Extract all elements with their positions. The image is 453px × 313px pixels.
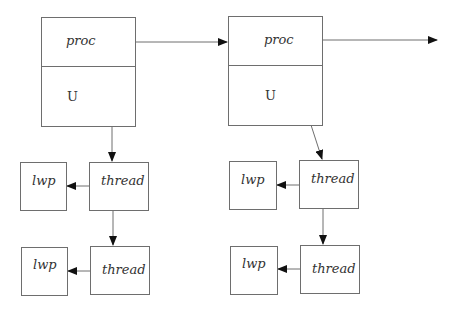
thread-box: thread bbox=[300, 245, 360, 294]
lwp-label: lwp bbox=[241, 172, 265, 187]
arrow-proc2-to-thread bbox=[311, 125, 322, 159]
lwp-box: lwp bbox=[230, 246, 278, 295]
proc-label: proc bbox=[264, 32, 294, 47]
thread-box: thread bbox=[89, 162, 149, 211]
lwp-box: lwp bbox=[229, 161, 277, 210]
lwp-label: lwp bbox=[32, 173, 56, 188]
thread-label: thread bbox=[101, 173, 145, 188]
proc-box-1: proc U bbox=[41, 17, 136, 127]
lwp-box: lwp bbox=[20, 162, 67, 211]
lwp-label: lwp bbox=[33, 257, 57, 272]
thread-label: thread bbox=[312, 261, 356, 276]
thread-label: thread bbox=[102, 262, 146, 277]
thread-box: thread bbox=[299, 160, 359, 209]
proc-box-2: proc U bbox=[228, 16, 323, 126]
lwp-box: lwp bbox=[21, 247, 68, 296]
lwp-label: lwp bbox=[242, 256, 266, 271]
u-area-label: U bbox=[67, 89, 78, 104]
proc-section: proc bbox=[42, 18, 135, 67]
thread-box: thread bbox=[90, 246, 150, 295]
proc-label: proc bbox=[66, 33, 96, 48]
proc-section: proc bbox=[229, 17, 322, 66]
u-area-label: U bbox=[265, 88, 276, 103]
thread-label: thread bbox=[311, 171, 355, 186]
